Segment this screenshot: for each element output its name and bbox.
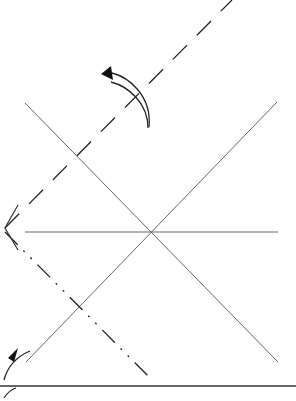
mountain-fold-line xyxy=(5,232,150,378)
fold-arrow-top-icon xyxy=(101,66,149,128)
origami-diagram xyxy=(0,0,296,401)
fold-arrow-bottom-left-icon xyxy=(4,348,30,398)
valley-fold-line xyxy=(5,0,232,228)
